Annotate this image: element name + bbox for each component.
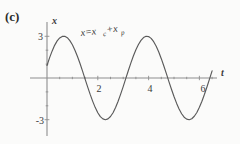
x-tick-label-2: 2: [97, 83, 102, 94]
y-tick-label-minus-3: -3: [36, 115, 44, 126]
y-tick-label-3: 3: [38, 31, 43, 42]
x-tick-label-4: 4: [148, 83, 153, 94]
x-axis-label: t: [221, 67, 225, 78]
equation-subscript-p: p: [119, 29, 125, 38]
y-axis-label: x: [51, 15, 57, 26]
equation-plus-x: +x: [106, 22, 119, 34]
x-tick-label-6: 6: [201, 83, 206, 94]
equation-annotation: x=x c +x p: [79, 22, 125, 42]
equation-lead: x=x: [79, 25, 97, 38]
sinusoid-plot: x t 3 -3 2 4 6 x=x c +x p: [0, 0, 240, 144]
figure-panel-c: (c) x t 3 -3 2 4 6 x=x c +x p: [0, 0, 240, 144]
